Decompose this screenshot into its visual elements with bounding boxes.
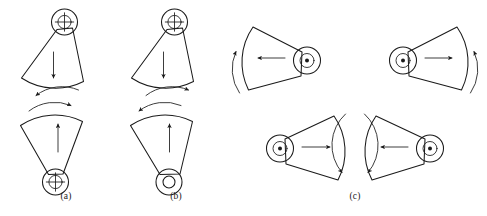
lower-wedge-body: [131, 115, 193, 174]
upper-wedge-body: [132, 28, 194, 88]
panel-c: (c): [232, 27, 478, 202]
panel-b-upper-wedge: [132, 9, 194, 88]
upper-wedge-body: [22, 28, 84, 88]
panel-c-top-right-wedge: [390, 27, 469, 90]
bottom-left-pivot-dot: [278, 147, 282, 151]
bottom-right-pivot-dot: [428, 147, 432, 151]
top-left-pivot-dot: [305, 59, 309, 63]
lower-wedge-body: [21, 115, 83, 174]
panel-b-lower-curved-arrow-left: [139, 102, 181, 111]
lower-pivot-inner-ring: [163, 176, 175, 188]
panel-b-lower-wedge: [131, 115, 193, 195]
panel-c-top-left-curved-arrow-up: [232, 52, 239, 94]
panel-a-lower-curved-arrow-right: [29, 102, 71, 111]
panel-b-label: (b): [170, 191, 182, 202]
top-right-pivot-dot: [401, 59, 405, 63]
panel-a: (a): [21, 9, 84, 202]
figure-root: (a) (b): [0, 0, 487, 216]
panel-c-label: (c): [349, 191, 360, 202]
panel-c-bottom-right-wedge: [365, 116, 444, 180]
panel-c-top-left-wedge: [242, 27, 321, 90]
panel-b: (b): [131, 9, 194, 202]
panel-a-label: (a): [60, 191, 71, 202]
panel-c-bottom-left-wedge: [267, 116, 346, 180]
diagram-canvas: (a) (b): [0, 0, 487, 216]
top-right-wedge-body: [408, 27, 468, 90]
panel-c-top-right-curved-arrow-up: [471, 52, 478, 94]
panel-a-upper-wedge: [22, 9, 84, 88]
panel-a-lower-wedge: [21, 115, 83, 195]
top-left-wedge-body: [242, 27, 302, 90]
